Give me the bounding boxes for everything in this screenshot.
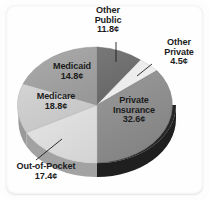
pie-label-medicare: Medicare 18.8¢ xyxy=(25,92,87,111)
pie-label-medicaid-line1: Medicaid xyxy=(53,61,91,71)
pie-label-out-of-pocket-line1: Out-of-Pocket xyxy=(17,161,76,171)
pie-label-medicaid: Medicaid 14.8¢ xyxy=(42,62,102,81)
pie-value-private-insurance: 32.6¢ xyxy=(104,115,164,125)
chart-card: Other Public 11.8¢ Other Private 4.5¢ Pr… xyxy=(0,0,209,200)
pie-label-out-of-pocket: Out-of-Pocket 17.4¢ xyxy=(4,162,88,181)
pie-label-other-public: Other Public 11.8¢ xyxy=(78,6,138,35)
pie-label-other-private: Other Private 4.5¢ xyxy=(152,38,206,67)
pie-value-out-of-pocket: 17.4¢ xyxy=(4,172,88,182)
pie-label-other-public-line2: Public xyxy=(95,15,122,25)
pie-value-other-private: 4.5¢ xyxy=(152,57,206,67)
pie-label-medicare-line1: Medicare xyxy=(37,91,76,101)
pie-label-private-insurance-line2: Insurance xyxy=(113,105,155,115)
pie-label-other-private-line1: Other xyxy=(167,37,191,47)
pie-value-medicare: 18.8¢ xyxy=(25,102,87,112)
pie-value-medicaid: 14.8¢ xyxy=(42,72,102,82)
pie-label-private-insurance: Private Insurance 32.6¢ xyxy=(104,96,164,125)
pie-label-other-public-line1: Other xyxy=(96,5,120,15)
pie-value-other-public: 11.8¢ xyxy=(78,25,138,35)
pie-label-private-insurance-line1: Private xyxy=(119,95,149,105)
pie-label-other-private-line2: Private xyxy=(164,47,194,57)
